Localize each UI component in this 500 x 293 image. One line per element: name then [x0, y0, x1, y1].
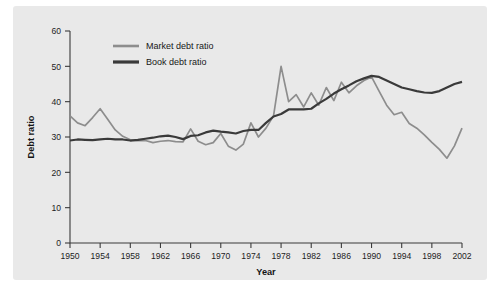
x-tick-label-1966: 1966 — [181, 251, 200, 261]
legend-label-1: Book debt ratio — [146, 57, 207, 67]
x-tick-label-1954: 1954 — [91, 251, 110, 261]
series-line-market-debt-ratio — [70, 66, 462, 158]
y-tick-label-0: 0 — [56, 238, 61, 248]
x-axis-ticks: 1950195419581962196619701974197819821986… — [60, 243, 471, 261]
legend-label-0: Market debt ratio — [146, 41, 214, 51]
y-tick-label-50: 50 — [51, 62, 61, 72]
x-tick-label-1994: 1994 — [392, 251, 411, 261]
chart-figure: 0102030405060 19501954195819621966197019… — [0, 0, 500, 293]
series-group — [70, 66, 462, 158]
x-tick-label-1982: 1982 — [302, 251, 321, 261]
debt-ratio-line-chart: 0102030405060 19501954195819621966197019… — [0, 0, 500, 293]
x-tick-label-1970: 1970 — [211, 251, 230, 261]
series-line-book-debt-ratio — [70, 76, 462, 141]
y-axis-ticks: 0102030405060 — [51, 26, 70, 248]
chart-legend: Market debt ratioBook debt ratio — [113, 41, 214, 67]
x-tick-label-1958: 1958 — [121, 251, 140, 261]
x-tick-label-1950: 1950 — [60, 251, 79, 261]
x-axis-title: Year — [256, 267, 276, 277]
y-axis-title: Debt ratio — [26, 115, 36, 158]
y-tick-label-40: 40 — [51, 97, 61, 107]
y-tick-label-30: 30 — [51, 132, 61, 142]
y-tick-label-10: 10 — [51, 203, 61, 213]
y-tick-label-60: 60 — [51, 26, 61, 36]
x-tick-label-1986: 1986 — [332, 251, 351, 261]
x-tick-label-1998: 1998 — [422, 251, 441, 261]
x-tick-label-1990: 1990 — [362, 251, 381, 261]
y-tick-label-20: 20 — [51, 168, 61, 178]
x-tick-label-1962: 1962 — [151, 251, 170, 261]
x-tick-label-1978: 1978 — [272, 251, 291, 261]
x-tick-label-2002: 2002 — [452, 251, 471, 261]
x-tick-label-1974: 1974 — [241, 251, 260, 261]
